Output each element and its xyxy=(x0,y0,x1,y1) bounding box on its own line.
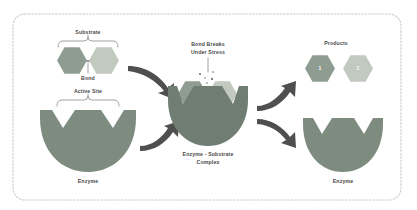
complex-label-line1: Enzyme - Substrate xyxy=(183,151,234,157)
spark-3 xyxy=(204,77,205,78)
active-site-label: Active Site xyxy=(74,88,102,94)
spark-2 xyxy=(212,71,214,73)
complex-label-line2: Complex xyxy=(197,159,220,165)
bond-breaks-label: Bond Breaks xyxy=(191,41,225,47)
spark-4 xyxy=(211,78,213,80)
products-group: 1 1 xyxy=(305,55,373,81)
spark-cluster xyxy=(199,71,214,84)
enzyme-substrate-complex xyxy=(168,81,248,146)
enzyme-right-shape xyxy=(303,118,383,172)
enzyme-left-label: Enzyme xyxy=(78,178,99,184)
bond-label: Bond xyxy=(81,75,95,81)
spark-1 xyxy=(199,73,201,75)
substrate-unit-left xyxy=(57,47,87,73)
arrow-substrate-to-complex xyxy=(128,66,174,99)
enzyme-left-shape xyxy=(40,110,136,172)
enzyme-right-label: Enzyme xyxy=(333,178,354,184)
enzyme-substrate-diagram: Substrate Bond Active Site Enzyme xyxy=(0,0,417,210)
diagram-canvas: Substrate Bond Active Site Enzyme xyxy=(0,0,417,210)
substrate-label: Substrate xyxy=(75,29,100,35)
product-2-label: 1 xyxy=(357,65,360,71)
arrow-complex-to-enzyme xyxy=(257,119,296,148)
spark-5 xyxy=(206,82,207,83)
substrate-unit-right xyxy=(89,47,119,73)
products-label: Products xyxy=(324,40,348,46)
active-site-brace xyxy=(57,94,119,106)
under-stress-label: Under Stress xyxy=(191,49,225,55)
product-1-label: 1 xyxy=(319,65,322,71)
substrate-brace xyxy=(58,35,118,47)
arrow-enzyme-to-complex xyxy=(140,121,179,151)
arrow-complex-to-products xyxy=(257,81,296,111)
